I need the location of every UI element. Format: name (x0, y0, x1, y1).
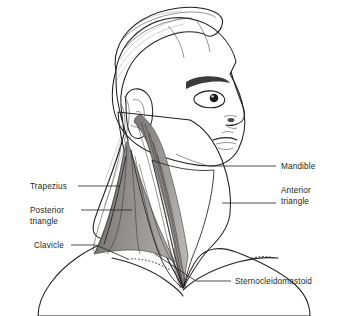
label-mandible: Mandible (281, 162, 316, 171)
label-posterior-triangle-line2: triangle (30, 217, 58, 226)
eye (194, 91, 225, 108)
torso-shoulders (38, 235, 310, 316)
anatomy-illustration: Trapezius Posterior triangle Clavicle Ma… (0, 0, 348, 316)
label-anterior-triangle-line1: Anterior (281, 186, 311, 195)
eyebrow (186, 76, 230, 89)
label-posterior-triangle-line1: Posterior (30, 206, 64, 215)
label-anterior-triangle-line2: triangle (281, 197, 309, 206)
face-profile (113, 18, 245, 166)
label-clavicle: Clavicle (34, 241, 64, 250)
label-sternocleidomastoid: Sternocleidomastoid (235, 277, 312, 286)
anatomy-figure: Trapezius Posterior triangle Clavicle Ma… (0, 0, 348, 316)
lips (213, 132, 237, 150)
label-trapezius: Trapezius (30, 182, 67, 191)
